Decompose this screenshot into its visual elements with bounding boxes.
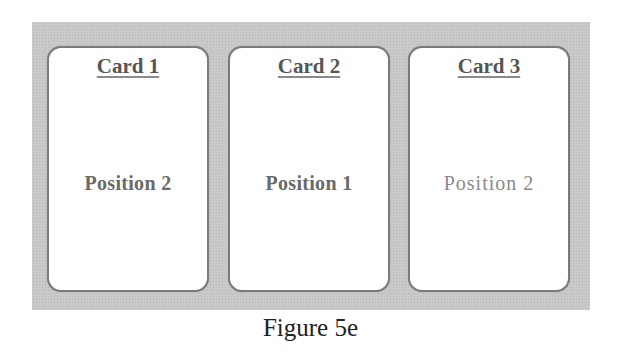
card-position-label: Position 2 xyxy=(410,172,568,195)
card-position-label: Position 2 xyxy=(49,172,207,195)
card-title: Card 1 xyxy=(49,54,207,79)
card-position-label: Position 1 xyxy=(230,172,388,195)
card-title: Card 3 xyxy=(410,54,568,79)
card-2: Card 2 Position 1 xyxy=(228,46,390,292)
card-3: Card 3 Position 2 xyxy=(408,46,570,292)
card-title: Card 2 xyxy=(230,54,388,79)
card-1: Card 1 Position 2 xyxy=(47,46,209,292)
figure-caption: Figure 5e xyxy=(0,314,621,342)
card-tray: Card 1 Position 2 Card 2 Position 1 Card… xyxy=(32,22,590,310)
